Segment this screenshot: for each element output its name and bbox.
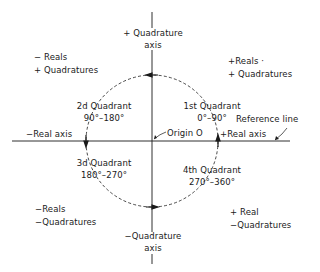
quadrant-4-range: 270°–360° — [177, 176, 247, 188]
quadrant-3-range: 180°–270° — [70, 169, 138, 181]
quadrant-4-signs: + Real −Quadratures — [230, 206, 291, 232]
quadrant-3-label: 3d Quadrant 180°–270° — [70, 157, 138, 181]
quadrant-4-name: 4th Quadrant — [177, 164, 247, 176]
negative-quadrature-label: −Quadrature axis — [114, 230, 192, 254]
quadrant-1-name: 1st Quadrant — [178, 100, 246, 112]
quadrant-3-sign-real: −Reals — [35, 203, 96, 216]
positive-quadrature-label-line1: + Quadrature — [114, 27, 192, 39]
quadrant-4-sign-quadrature: −Quadratures — [230, 219, 291, 232]
arrow-top-icon — [146, 73, 158, 77]
quadrant-1-sign-real: +Reals · — [228, 55, 292, 68]
quadrant-1-sign-quadrature: + Quadratures — [228, 68, 292, 81]
negative-quadrature-label-line1: −Quadrature — [114, 230, 192, 242]
quadrant-2-name: 2d Quadrant — [70, 100, 138, 112]
quadrant-3-signs: −Reals −Quadratures — [35, 203, 96, 229]
origin-label: Origin O — [167, 127, 203, 139]
quadrant-4-sign-real: + Real — [230, 206, 291, 219]
quadrant-4-label: 4th Quadrant 270°–360° — [177, 164, 247, 188]
negative-quadrature-label-line2: axis — [114, 242, 192, 254]
positive-real-axis-label: +Real axis — [220, 128, 266, 140]
arrow-left-icon — [84, 135, 88, 147]
quadrant-1-label: 1st Quadrant 0°–90° — [178, 100, 246, 124]
quadrant-2-label: 2d Quadrant 90°–180° — [70, 100, 138, 124]
arrow-bottom-icon — [146, 205, 158, 209]
positive-quadrature-label-line2: axis — [114, 39, 192, 51]
quadrant-3-name: 3d Quadrant — [70, 157, 138, 169]
quadrant-1-range: 0°–90° — [178, 112, 246, 124]
positive-quadrature-label: + Quadrature axis — [114, 27, 192, 51]
quadrant-2-signs: − Reals + Quadratures — [34, 51, 98, 77]
reference-arrow-icon — [275, 136, 279, 140]
quadrant-3-sign-quadrature: −Quadratures — [35, 216, 96, 229]
quadrant-2-sign-quadrature: + Quadratures — [34, 64, 98, 77]
quadrant-2-range: 90°–180° — [70, 112, 138, 124]
negative-real-axis-label: −Real axis — [26, 128, 72, 140]
quadrant-1-signs: +Reals · + Quadratures — [228, 55, 292, 81]
quadrant-2-sign-real: − Reals — [34, 51, 98, 64]
